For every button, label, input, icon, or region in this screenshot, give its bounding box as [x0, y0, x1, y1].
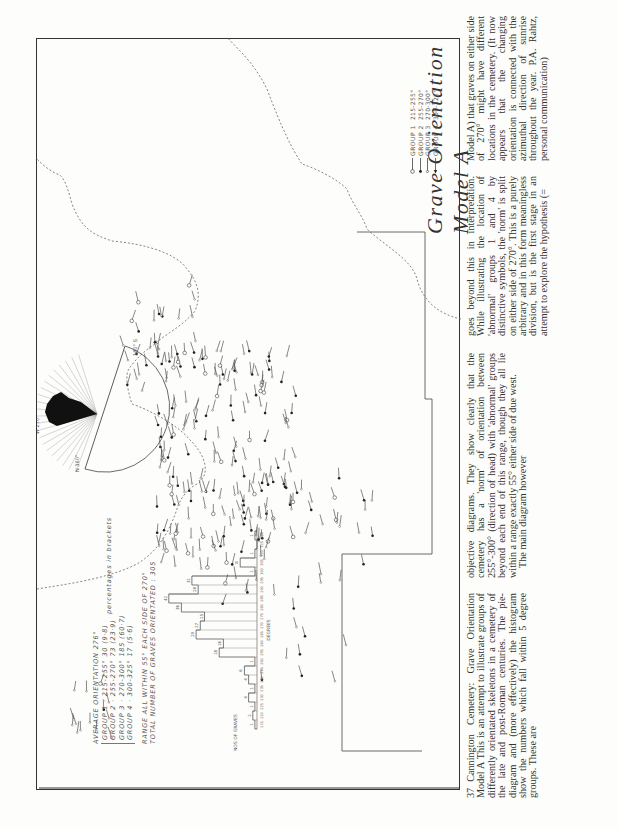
svg-text:1: 1	[249, 570, 254, 573]
svg-text:8: 8	[234, 561, 239, 564]
svg-text:290: 290	[260, 586, 264, 593]
group-4-stat: GROUP 4 · 300-325° 17 (5·6)	[126, 561, 135, 740]
caption-column-2: objective diagrams. They show clearly th…	[466, 353, 616, 578]
caption-text-2b: The main diagram however	[518, 353, 528, 578]
orientation-histogram: 2151220222512304235124042456250125518260…	[163, 527, 271, 751]
svg-text:270: 270	[260, 622, 264, 629]
group-3-stat: GROUP 3 · 270-300° 185 (60·7)	[118, 561, 127, 740]
svg-text:315: 315	[260, 541, 264, 548]
svg-text:4: 4	[243, 678, 248, 681]
pie-label-west: W 270°	[37, 415, 40, 434]
svg-text:265: 265	[260, 631, 264, 638]
legend-item-group-1: GROUP 1215-255°	[409, 34, 417, 174]
svg-text:28: 28	[192, 587, 197, 593]
svg-text:6: 6	[238, 669, 243, 672]
orientation-pie-diagram: N 360° 180° S W 270°	[37, 339, 170, 472]
caption-column-4: Model A) that graves on either side of 2…	[466, 16, 616, 161]
svg-text:285: 285	[260, 595, 264, 602]
svg-text:215: 215	[260, 721, 264, 728]
svg-text:1: 1	[249, 687, 254, 690]
svg-text:4: 4	[243, 696, 248, 699]
svg-text:245: 245	[260, 667, 264, 674]
legend: GROUP 1215-255° GROUP 2255-270° GROUP 32…	[409, 34, 439, 174]
svg-text:29: 29	[190, 632, 195, 638]
svg-text:1: 1	[249, 723, 254, 726]
filled-arrow-icon	[432, 156, 439, 174]
percentages-note: percentages in brackets	[105, 464, 113, 614]
svg-text:18: 18	[213, 650, 218, 656]
svg-text:2: 2	[247, 714, 252, 717]
average-orientation: AVERAGE ORIENTATION 276°	[92, 561, 101, 744]
svg-text:310: 310	[260, 550, 264, 557]
legend-item-group-2: GROUP 2255-270°	[417, 34, 425, 174]
figure-number: 37	[465, 788, 476, 798]
caption-text-2a: objective diagrams. They show clearly th…	[466, 353, 518, 578]
svg-text:320: 320	[260, 532, 264, 539]
svg-text:25: 25	[199, 614, 204, 620]
total-graves: TOTAL NUMBER OF GRAVES ORIENTATED : 305	[149, 561, 158, 744]
filled-dot-icon	[417, 156, 424, 174]
book-page-rotated: N 360° 180° S W 270° 2151220222512304235…	[0, 0, 618, 828]
map-figure-frame: N 360° 180° S W 270° 2151220222512304235…	[36, 38, 460, 790]
svg-text:DEGREES: DEGREES	[266, 619, 271, 641]
statistics-block: AVERAGE ORIENTATION 276° GROUP 1 · 215-2…	[92, 561, 158, 744]
svg-text:36: 36	[175, 605, 180, 611]
small-circle-icon	[424, 156, 431, 174]
legend-item-group-4: GROUP 4300-325°	[432, 34, 440, 174]
svg-text:1: 1	[249, 660, 254, 663]
svg-text:295: 295	[260, 577, 264, 584]
pie-label-north: N 360°	[74, 454, 80, 472]
open-circle-icon	[409, 156, 416, 174]
caption-text-1: Cannington Cemetery: Grave Orientation M…	[465, 593, 538, 798]
svg-text:230: 230	[260, 694, 264, 701]
svg-text:NOS OF GRAVES: NOS OF GRAVES	[233, 714, 238, 751]
svg-text:1: 1	[249, 552, 254, 555]
svg-text:280: 280	[260, 604, 264, 611]
pie-label-south: 180° S	[132, 339, 138, 356]
svg-text:240: 240	[260, 676, 264, 683]
svg-text:225: 225	[260, 703, 264, 710]
caption-text-4: Model A) that graves on either side of 2…	[466, 16, 549, 161]
range-note: RANGE ALL WITHIN 55° EACH SIDE OF 270°	[141, 561, 150, 744]
svg-text:1: 1	[249, 534, 254, 537]
caption-column-3: goes beyond this in interpretation. Whil…	[466, 176, 616, 336]
svg-text:305: 305	[260, 559, 264, 566]
svg-text:220: 220	[260, 712, 264, 719]
svg-text:255: 255	[260, 649, 264, 656]
svg-text:300: 300	[260, 568, 264, 575]
legend-item-group-3: GROUP 3270-300°	[424, 34, 432, 174]
svg-text:275: 275	[260, 613, 264, 620]
caption-text-3: goes beyond this in interpretation. Whil…	[466, 176, 549, 336]
svg-text:1: 1	[249, 705, 254, 708]
svg-text:27: 27	[194, 623, 199, 629]
svg-text:260: 260	[260, 640, 264, 647]
svg-text:250: 250	[260, 658, 264, 665]
caption-column-1: 37Cannington Cemetery: Grave Orientation…	[466, 593, 616, 798]
svg-text:16: 16	[217, 641, 222, 647]
svg-text:42: 42	[163, 596, 168, 602]
svg-text:235: 235	[260, 685, 264, 692]
svg-text:31: 31	[186, 578, 191, 584]
